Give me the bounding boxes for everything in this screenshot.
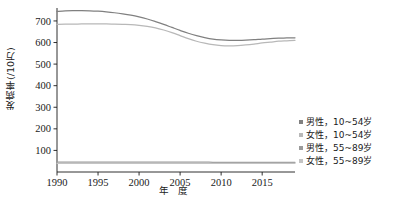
legend-swatch-icon (299, 159, 303, 163)
series-line (57, 11, 295, 41)
x-axis-title: 年 度 (110, 183, 240, 197)
axis-group (57, 8, 295, 172)
legend-item: 男性，55~89岁 (299, 142, 372, 154)
legend-swatch-icon (299, 146, 303, 150)
legend-item-label: 女性，10~54岁 (306, 129, 372, 141)
legend-swatch-icon (299, 133, 303, 137)
chart-figure: 1002003004005006007001990199520002005201… (0, 0, 400, 211)
svg-text:200: 200 (35, 123, 51, 134)
series-line (57, 24, 295, 46)
svg-text:400: 400 (35, 80, 51, 91)
chart-legend: 男性，10~54岁 女性，10~54岁 男性，55~89岁 女性，55~89岁 (299, 116, 372, 167)
legend-item-label: 男性，55~89岁 (306, 142, 372, 154)
line-chart-svg: 1002003004005006007001990199520002005201… (0, 0, 400, 211)
tick-group (54, 21, 263, 176)
legend-item: 女性，10~54岁 (299, 129, 372, 141)
legend-item: 女性，55~89岁 (299, 155, 372, 167)
legend-item-label: 女性，55~89岁 (306, 155, 372, 167)
svg-text:500: 500 (35, 59, 51, 70)
svg-text:100: 100 (35, 145, 51, 156)
legend-swatch-icon (299, 120, 303, 124)
svg-text:700: 700 (35, 16, 51, 27)
legend-item: 男性，10~54岁 (299, 116, 372, 128)
svg-text:300: 300 (35, 102, 51, 113)
svg-text:1990: 1990 (47, 177, 68, 188)
svg-text:1995: 1995 (88, 177, 109, 188)
svg-text:600: 600 (35, 37, 51, 48)
series-group (57, 11, 295, 164)
legend-item-label: 男性，10~54岁 (306, 116, 372, 128)
y-axis-title: 发病率(/10万) (3, 14, 19, 144)
svg-text:2015: 2015 (252, 177, 273, 188)
plot-area: 1002003004005006007001990199520002005201… (0, 0, 400, 211)
